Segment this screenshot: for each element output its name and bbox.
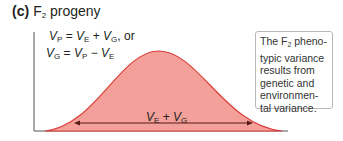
formula-vg: VG = VP − VE: [46, 46, 114, 61]
formula-vp: VP = VE + VG, or: [49, 29, 135, 44]
annotation-box: The F2 pheno-typic variance results from…: [255, 31, 333, 109]
arrow-label: VE + VG: [146, 110, 187, 125]
